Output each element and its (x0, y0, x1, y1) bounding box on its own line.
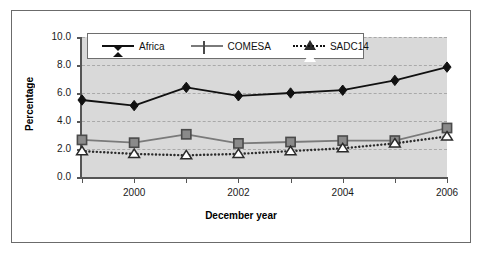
y-tick-label: 10.0 (31, 32, 71, 42)
x-tick-mark (343, 177, 344, 183)
x-tick-mark (291, 177, 292, 183)
data-point-marker (391, 75, 399, 85)
x-tick-label: 2000 (123, 188, 145, 198)
x-tick-mark (395, 177, 396, 183)
legend-swatch-sadc14 (293, 40, 325, 52)
x-tick-label: 2004 (332, 188, 354, 198)
legend-entry-comesa: COMESA (191, 40, 271, 52)
y-tick-label: 8.0 (31, 60, 71, 70)
x-tick-mark (238, 177, 239, 183)
legend-label-africa: Africa (139, 41, 165, 52)
x-tick-mark (447, 177, 448, 183)
y-tick-label: 0.0 (31, 172, 71, 182)
data-point-marker (182, 130, 191, 139)
legend-entry-sadc14: SADC14 (293, 40, 369, 52)
filled-square-icon (203, 42, 205, 53)
x-tick-mark (186, 177, 187, 183)
x-tick-label: 2002 (227, 188, 249, 198)
x-tick-mark (134, 177, 135, 183)
data-point-marker (182, 82, 190, 92)
legend-label-comesa: COMESA (228, 41, 271, 52)
open-triangle-icon (304, 41, 316, 52)
data-point-marker (234, 91, 242, 101)
data-point-marker (339, 85, 347, 95)
data-point-marker (285, 146, 296, 154)
filled-diamond-icon (113, 41, 123, 52)
x-axis-title: December year (0, 210, 482, 221)
legend-swatch-comesa (191, 40, 223, 52)
data-point-marker (77, 135, 86, 144)
data-point-marker (130, 100, 138, 110)
x-tick-mark (82, 177, 83, 183)
data-point-marker (130, 138, 139, 147)
chart-legend: Africa COMESA SADC14 (87, 33, 364, 59)
data-point-marker (287, 88, 295, 98)
data-point-marker (78, 95, 86, 105)
y-tick-label: 4.0 (31, 116, 71, 126)
series-line-africa (82, 67, 447, 106)
y-tick-label: 2.0 (31, 144, 71, 154)
legend-line-comesa (191, 45, 223, 47)
data-point-marker (233, 149, 244, 157)
chart-figure: Percentage 2000200220042006 0.02.04.06.0… (0, 0, 482, 253)
legend-swatch-africa (102, 40, 134, 52)
legend-label-sadc14: SADC14 (330, 41, 369, 52)
x-tick-label: 2006 (436, 188, 458, 198)
data-point-marker (234, 139, 243, 148)
legend-entry-africa: Africa (102, 40, 165, 52)
y-tick-label: 6.0 (31, 88, 71, 98)
